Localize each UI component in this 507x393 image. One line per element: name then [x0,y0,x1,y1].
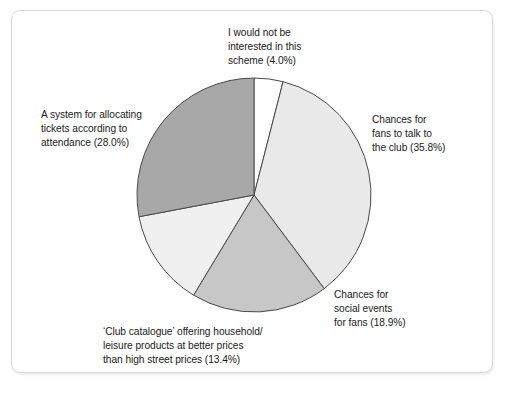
slice-label-not-interested: I would not be interested in this scheme… [228,26,358,69]
slice-label-talk-to-club: Chances for fans to talk to the club (35… [372,113,496,156]
slice-label-allocating-tickets: A system for allocating tickets accordin… [41,108,191,151]
slice-label-club-catalogue: ‘Club catalogue’ offering household/ lei… [103,325,333,368]
pie-chart: I would not be interested in this scheme… [0,0,507,393]
slice-label-social-events: Chances for social events for fans (18.9… [334,288,464,331]
figure-canvas: I would not be interested in this scheme… [0,0,507,393]
